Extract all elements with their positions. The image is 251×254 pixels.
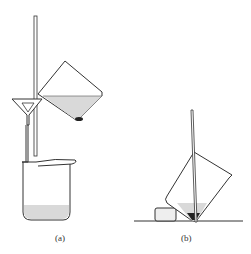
diagram-canvas — [0, 0, 251, 254]
pouring-beaker — [38, 61, 102, 121]
support-block — [155, 208, 176, 221]
receiving-beaker — [22, 159, 76, 220]
glass-rod-a — [34, 16, 37, 156]
label-b: (b) — [181, 233, 192, 243]
label-a: (a) — [55, 233, 65, 243]
